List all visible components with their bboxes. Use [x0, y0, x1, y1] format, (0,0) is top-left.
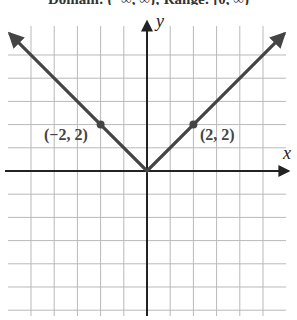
point-right-label: (2, 2) — [200, 126, 235, 144]
y-axis-label: y — [154, 11, 164, 31]
point-left-label: (−2, 2) — [44, 126, 88, 144]
coordinate-plane: (−2, 2) (2, 2) x y — [0, 0, 297, 320]
point-right — [189, 121, 197, 129]
point-left — [97, 121, 105, 129]
x-axis-label: x — [282, 143, 291, 163]
